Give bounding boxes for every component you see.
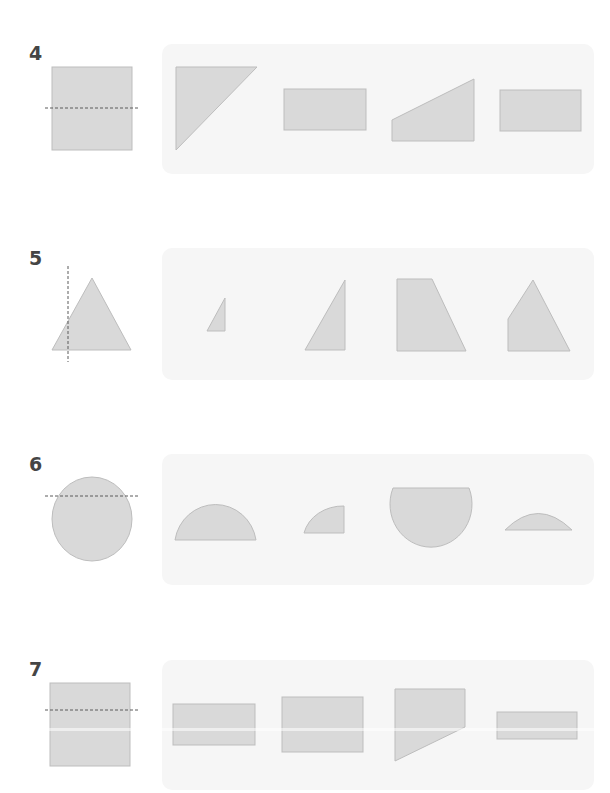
option-a-small-triangle[interactable] xyxy=(207,298,225,331)
question-7-shapes xyxy=(45,683,577,766)
original-triangle xyxy=(52,278,131,350)
option-a-right-triangle[interactable] xyxy=(176,67,257,150)
option-d-pentagon[interactable] xyxy=(508,280,570,351)
option-a-rectangle[interactable] xyxy=(173,704,255,745)
option-c-truncated-circle[interactable] xyxy=(390,488,472,547)
option-c-right-trapezoid[interactable] xyxy=(392,79,474,141)
question-6-shapes xyxy=(45,477,572,561)
option-a-semicircle[interactable] xyxy=(175,505,256,540)
question-4-shapes xyxy=(45,67,581,150)
question-5-shapes xyxy=(52,266,570,362)
option-c-trapezoid[interactable] xyxy=(395,689,465,761)
shapes-canvas xyxy=(0,0,610,793)
option-d-rectangle[interactable] xyxy=(500,90,581,131)
option-b-rectangle[interactable] xyxy=(282,697,363,752)
option-d-circular-segment[interactable] xyxy=(505,514,572,531)
option-b-quarter-circle[interactable] xyxy=(304,506,344,533)
option-b-rectangle[interactable] xyxy=(284,89,366,130)
option-c-trapezoid[interactable] xyxy=(397,279,466,351)
original-circle xyxy=(52,477,132,561)
option-d-thin-rectangle[interactable] xyxy=(497,712,577,739)
original-rectangle xyxy=(50,683,130,766)
option-b-right-triangle[interactable] xyxy=(305,280,345,350)
scan-artifact xyxy=(0,728,610,731)
